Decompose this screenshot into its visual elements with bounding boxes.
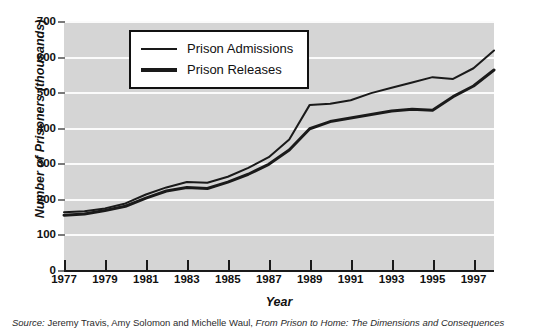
adjacent-panel-fragment: [505, 0, 536, 335]
x-tick-1993: [392, 260, 394, 271]
x-tick-1983: [187, 260, 189, 271]
x-tick-1977: [64, 260, 66, 271]
series-line-prison-releases: [64, 70, 494, 215]
legend-item-prison-admissions: Prison Admissions: [141, 38, 293, 59]
source-label: Source:: [12, 317, 45, 328]
y-axis-title: Number of Prisoners (thousands): [33, 7, 47, 231]
x-tick-1987: [269, 260, 271, 271]
x-tick-1981: [146, 260, 148, 271]
x-tick-1989: [310, 260, 312, 271]
x-tick-1997: [474, 260, 476, 271]
x-axis-title: Year: [64, 295, 494, 309]
x-axis-line: [64, 270, 494, 272]
x-tick-1995: [433, 260, 435, 271]
y-tick-400: [58, 128, 65, 130]
legend-item-prison-releases: Prison Releases: [141, 59, 293, 80]
y-tick-100: [58, 234, 65, 236]
x-tick-label-1977: 1977: [41, 274, 87, 286]
source-caption: Source: Jeremy Travis, Amy Solomon and M…: [12, 317, 532, 328]
source-title: From Prison to Home: The Dimensions and …: [256, 317, 505, 328]
x-tick-label-1993: 1993: [369, 274, 415, 286]
x-tick-label-1995: 1995: [410, 274, 456, 286]
x-tick-1991: [351, 260, 353, 271]
x-tick-label-1981: 1981: [123, 274, 169, 286]
y-tick-700: [58, 21, 65, 23]
figure: 7006005004003002001000 19771979198119831…: [0, 0, 536, 335]
chart-legend: Prison AdmissionsPrison Releases: [129, 30, 309, 89]
legend-item-label: Prison Releases: [187, 62, 282, 77]
x-tick-label-1991: 1991: [328, 274, 374, 286]
y-tick-200: [58, 199, 65, 201]
legend-line-swatch-icon: [141, 68, 177, 72]
x-tick-1985: [228, 260, 230, 271]
y-tick-label-100: 100: [12, 229, 56, 241]
legend-line-swatch-icon: [141, 48, 177, 50]
y-tick-500: [58, 92, 65, 94]
chart-panel: 7006005004003002001000 19771979198119831…: [12, 8, 494, 308]
x-tick-1979: [105, 260, 107, 271]
x-tick-label-1979: 1979: [82, 274, 128, 286]
x-tick-label-1987: 1987: [246, 274, 292, 286]
legend-item-label: Prison Admissions: [187, 41, 293, 56]
x-tick-label-1985: 1985: [205, 274, 251, 286]
y-tick-300: [58, 163, 65, 165]
x-tick-label-1983: 1983: [164, 274, 210, 286]
source-authors: Jeremy Travis, Amy Solomon and Michelle …: [45, 317, 256, 328]
y-tick-600: [58, 57, 65, 59]
x-tick-label-1997: 1997: [451, 274, 497, 286]
x-tick-label-1989: 1989: [287, 274, 333, 286]
